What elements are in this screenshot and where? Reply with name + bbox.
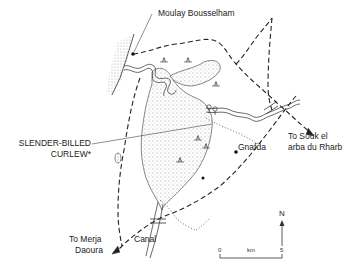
lagoon-north-arm bbox=[170, 60, 220, 86]
north-arrow-label: N bbox=[279, 209, 285, 219]
town-dot-icon bbox=[202, 177, 205, 180]
leader-moulay bbox=[134, 14, 152, 52]
lagoon bbox=[141, 68, 212, 210]
town-dot-icon bbox=[131, 52, 135, 56]
scale-end: 5 bbox=[280, 245, 283, 255]
label-road-east-1: To Souk el bbox=[288, 131, 328, 141]
scale-unit: km bbox=[247, 245, 255, 255]
label-species-1: SLENDER-BILLED bbox=[19, 138, 91, 148]
label-canal: Canal bbox=[134, 234, 156, 244]
scale-start: 0 bbox=[218, 245, 221, 255]
label-gnafda: Gnafda bbox=[238, 142, 266, 152]
coastal-sand bbox=[106, 34, 134, 95]
arrow-southwest bbox=[112, 246, 120, 254]
label-road-south-2: Daoura bbox=[75, 245, 103, 255]
pond bbox=[115, 153, 121, 163]
label-moulay-bousselham: Moulay Bousselham bbox=[158, 8, 235, 18]
label-species-2: CURLEW* bbox=[51, 149, 91, 159]
label-road-east-2: arba du Rharb bbox=[288, 142, 342, 152]
north-arrow-icon bbox=[280, 220, 285, 246]
canal bbox=[146, 202, 163, 258]
label-road-south-1: To Merja bbox=[69, 234, 102, 244]
